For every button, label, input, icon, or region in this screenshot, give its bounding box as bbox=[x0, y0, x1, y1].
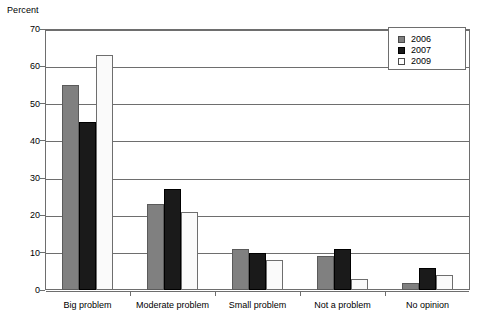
y-axis-tick-label: 70 bbox=[30, 25, 40, 34]
bar bbox=[266, 260, 283, 290]
bar bbox=[351, 279, 368, 290]
x-axis-tick-mark bbox=[300, 292, 301, 296]
y-axis-tick-labels: 010203040506070 bbox=[17, 29, 40, 290]
legend-item-label: 2007 bbox=[411, 46, 431, 55]
bar-group bbox=[317, 29, 368, 290]
bar-chart: Percent 010203040506070 Big problemModer… bbox=[0, 0, 483, 320]
y-axis-title: Percent bbox=[7, 5, 39, 16]
bar bbox=[96, 55, 113, 290]
y-axis-tick-label: 30 bbox=[30, 174, 40, 183]
legend-item-label: 2009 bbox=[411, 57, 431, 66]
legend-item: 2007 bbox=[398, 45, 431, 56]
bar bbox=[147, 204, 164, 290]
legend-item: 2009 bbox=[398, 56, 431, 67]
bar-group bbox=[147, 29, 198, 290]
bar bbox=[62, 85, 79, 290]
x-axis-label: No opinion bbox=[406, 300, 449, 310]
x-axis-tick-mark bbox=[215, 292, 216, 296]
bar bbox=[79, 122, 96, 290]
legend-swatch-2007-icon bbox=[398, 47, 405, 54]
bar-group bbox=[62, 29, 113, 290]
bar-group bbox=[232, 29, 283, 290]
legend-item: 2006 bbox=[398, 34, 431, 45]
x-axis-labels: Big problemModerate problemSmall problem… bbox=[45, 292, 470, 318]
bar bbox=[181, 212, 198, 290]
bar bbox=[419, 268, 436, 290]
x-axis-tick-mark bbox=[130, 292, 131, 296]
x-axis-tick-mark bbox=[385, 292, 386, 296]
x-axis-label: Small problem bbox=[229, 300, 287, 310]
bar bbox=[436, 275, 453, 290]
bar bbox=[249, 253, 266, 290]
legend-swatch-2009-icon bbox=[398, 58, 405, 65]
y-axis-tick-label: 10 bbox=[30, 248, 40, 257]
x-axis-label: Moderate problem bbox=[136, 300, 209, 310]
y-axis-tick-label: 0 bbox=[35, 286, 40, 295]
bar bbox=[402, 283, 419, 290]
legend-swatch-2006-icon bbox=[398, 36, 405, 43]
bar bbox=[164, 189, 181, 290]
y-axis-tick-label: 40 bbox=[30, 136, 40, 145]
x-axis-label: Big problem bbox=[63, 300, 111, 310]
y-axis-tick-label: 50 bbox=[30, 99, 40, 108]
bar bbox=[317, 256, 334, 290]
bar bbox=[334, 249, 351, 290]
legend-item-label: 2006 bbox=[411, 35, 431, 44]
y-axis-tick-label: 60 bbox=[30, 62, 40, 71]
x-axis-label: Not a problem bbox=[314, 300, 371, 310]
legend: 200620072009 bbox=[388, 27, 466, 70]
y-axis-tick-label: 20 bbox=[30, 211, 40, 220]
bar bbox=[232, 249, 249, 290]
